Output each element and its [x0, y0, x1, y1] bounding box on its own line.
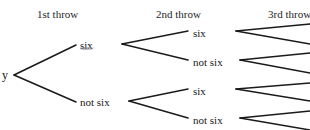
branch-third-throw-4 — [240, 60, 310, 73]
branch-second-throw-2 — [122, 44, 188, 60]
root-node-label: y — [2, 69, 8, 82]
branch-third-throw-7 — [240, 111, 310, 118]
node-first-throw-not-six: not six — [80, 96, 110, 108]
branch-second-throw-3 — [129, 89, 188, 101]
node-second-throw-six-upper: six — [193, 27, 206, 39]
branch-third-throw-1 — [236, 24, 310, 31]
branch-third-throw-8 — [240, 118, 310, 130]
branch-third-throw-5 — [236, 83, 310, 89]
branch-third-throw-6 — [236, 89, 310, 101]
node-first-throw-six: six — [80, 39, 93, 51]
branch-first-throw-2 — [14, 75, 76, 102]
node-second-throw-six-lower: six — [193, 85, 206, 97]
column-header-third-throw: 3rd throw — [0, 8, 310, 20]
branch-first-throw-1 — [14, 45, 76, 75]
branch-second-throw-1 — [122, 31, 188, 44]
probability-tree-diagram: 1st throw 2nd throw 3rd throw y six not … — [0, 0, 310, 130]
branch-third-throw-2 — [236, 31, 310, 44]
node-second-throw-not-six-upper: not six — [193, 56, 223, 68]
branch-second-throw-4 — [129, 101, 188, 118]
branch-third-throw-3 — [240, 53, 310, 60]
node-second-throw-not-six-lower: not six — [193, 114, 223, 126]
